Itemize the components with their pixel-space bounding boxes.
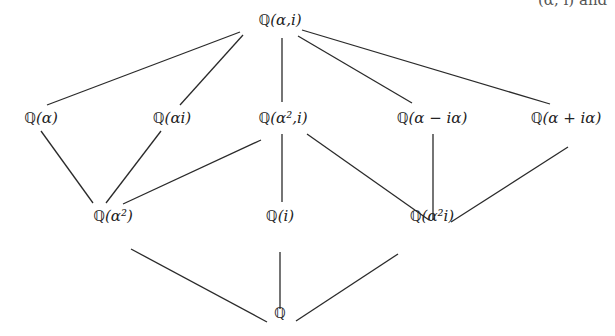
field-generators: (αi) (165, 109, 192, 127)
rationals-symbol: ℚ (24, 109, 36, 127)
field-node-q_a_minus: ℚ(α − iα) (397, 111, 468, 126)
edge-top-to-q_alpha (47, 32, 240, 105)
field-node-q_alpha2: ℚ(α²) (93, 209, 133, 224)
lattice-edges (0, 0, 615, 336)
field-generators: (α²) (105, 207, 133, 225)
field-generators: (α,i) (270, 11, 301, 29)
field-node-q_alpha2_i: ℚ(α²,i) (258, 111, 307, 126)
field-generators: (α − iα) (408, 109, 467, 127)
rationals-symbol: ℚ (153, 109, 165, 127)
rationals-symbol: ℚ (258, 11, 270, 29)
edge-q_alpha2_i-to-q_alpha2 (123, 140, 261, 204)
field-node-q_alphai: ℚ(αi) (153, 111, 191, 126)
rationals-symbol: ℚ (410, 207, 422, 225)
rationals-symbol: ℚ (93, 207, 105, 225)
field-node-q_a_plus: ℚ(α + iα) (531, 111, 602, 126)
rationals-symbol: ℚ (266, 207, 278, 225)
subfield-lattice-diagram: (α, i) and ℚ(α,i)ℚ(α)ℚ(αi)ℚ(α²,i)ℚ(α − i… (0, 0, 615, 336)
field-node-top: ℚ(α,i) (258, 13, 301, 28)
edge-q_alphai-to-q_alpha2 (106, 131, 161, 203)
edge-top-to-q_a_plus (302, 30, 550, 104)
field-generators: (i) (278, 207, 295, 225)
edge-q_alpha2-to-bottom (131, 249, 267, 322)
rationals-symbol: ℚ (274, 304, 286, 322)
field-node-q_alpha2i: ℚ(α²i) (410, 209, 454, 224)
field-generators: (α²,i) (270, 109, 307, 127)
rationals-symbol: ℚ (531, 109, 543, 127)
field-generators: (α²i) (422, 207, 455, 225)
edge-q_alpha-to-q_alpha2 (41, 131, 93, 203)
edge-q_alpha2i-to-bottom (296, 254, 398, 321)
field-generators: (α + iα) (542, 109, 601, 127)
rationals-symbol: ℚ (258, 109, 270, 127)
field-node-q_i: ℚ(i) (266, 209, 294, 224)
field-node-q_alpha: ℚ(α) (24, 111, 58, 126)
field-generators: (α) (36, 109, 58, 127)
edge-q_a_plus-to-q_alpha2i (451, 147, 568, 222)
rationals-symbol: ℚ (397, 109, 409, 127)
edge-top-to-q_alphai (180, 35, 243, 105)
field-node-bottom: ℚ (274, 306, 286, 321)
